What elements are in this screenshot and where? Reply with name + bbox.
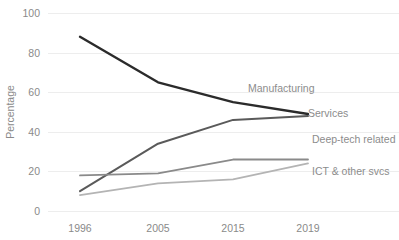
series-label: Manufacturing — [248, 82, 315, 94]
series-line — [80, 116, 308, 191]
x-tick-label: 2019 — [296, 222, 320, 234]
y-tick-label: 80 — [28, 47, 40, 59]
series-line — [80, 160, 308, 176]
x-axis-tick-labels: 1996200520152019 — [68, 222, 320, 234]
x-tick-label: 2015 — [221, 222, 245, 234]
series-label-group: ManufacturingServicesDeep-tech relatedIC… — [248, 82, 396, 177]
y-tick-label: 60 — [28, 86, 40, 98]
series-label: ICT & other svcs — [312, 165, 389, 177]
y-tick-label: 20 — [28, 165, 40, 177]
x-tick-label: 1996 — [68, 222, 92, 234]
line-chart: 020406080100 1996200520152019 Manufactur… — [0, 0, 399, 240]
y-tick-label: 40 — [28, 126, 40, 138]
y-axis-title: Percentage — [4, 85, 16, 139]
series-label: Deep-tech related — [312, 133, 396, 145]
y-axis-tick-labels: 020406080100 — [22, 7, 40, 217]
series-line — [80, 37, 308, 114]
series-label: Services — [308, 107, 348, 119]
y-tick-label: 100 — [22, 7, 40, 19]
series-line — [80, 163, 308, 195]
chart-canvas: 020406080100 1996200520152019 Manufactur… — [0, 0, 399, 240]
y-tick-label: 0 — [34, 205, 40, 217]
x-tick-label: 2005 — [146, 222, 170, 234]
